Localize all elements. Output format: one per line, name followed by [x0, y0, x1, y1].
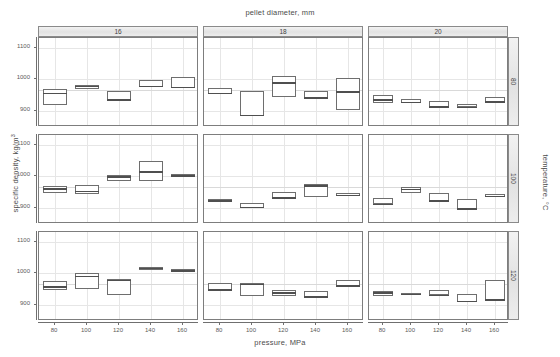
- y-tick-label: 900: [6, 203, 30, 209]
- x-tick-mark: [86, 322, 87, 325]
- reference-line: [369, 187, 507, 188]
- gridline-horizontal: [369, 273, 507, 274]
- x-tick-mark: [182, 322, 183, 325]
- y-tick-label: 1000: [6, 268, 30, 274]
- reference-line: [369, 90, 507, 91]
- gridline-horizontal: [369, 208, 507, 209]
- boxplot-box[interactable]: [485, 280, 506, 300]
- x-tick-label: 160: [170, 327, 194, 333]
- boxplot-median: [272, 197, 296, 199]
- y-tick-label: 900: [6, 300, 30, 306]
- boxplot-median: [240, 284, 264, 286]
- gridline-horizontal: [39, 111, 197, 112]
- column-strip-18: 18: [203, 26, 363, 37]
- y-tick-label: 1100: [6, 43, 30, 49]
- boxplot-median: [43, 188, 67, 190]
- y-tick-label: 900: [6, 106, 30, 112]
- x-tick-label: 120: [271, 327, 295, 333]
- boxplot-median: [457, 208, 478, 210]
- y-axis-line: [36, 134, 37, 223]
- x-tick-mark: [347, 322, 348, 325]
- boxplot-median: [107, 99, 131, 101]
- gridline-horizontal: [369, 79, 507, 80]
- panel-d16-t120: [38, 231, 198, 320]
- gridline-horizontal: [369, 111, 507, 112]
- boxplot-median: [240, 207, 264, 209]
- boxplot-median: [171, 270, 195, 272]
- x-tick-label: 140: [303, 327, 327, 333]
- panel-d18-t100: [203, 134, 363, 223]
- x-tick-label: 80: [207, 327, 231, 333]
- trellis-boxplot-figure: pellet diameter, mm pressure, MPa specif…: [0, 0, 560, 357]
- gridline-horizontal: [204, 176, 362, 177]
- row-strip-80: 80: [508, 37, 519, 126]
- x-axis-label: pressure, MPa: [0, 338, 560, 347]
- y-axis-line: [36, 37, 37, 126]
- x-tick-mark: [494, 322, 495, 325]
- gridline-horizontal: [204, 111, 362, 112]
- x-tick-label: 80: [42, 327, 66, 333]
- panel-d16-t80: [38, 37, 198, 126]
- boxplot-median: [429, 295, 450, 297]
- boxplot-median: [208, 93, 232, 95]
- gridline-horizontal: [39, 273, 197, 274]
- boxplot-median: [457, 107, 478, 109]
- x-tick-label: 120: [106, 327, 130, 333]
- x-tick-mark: [54, 322, 55, 325]
- boxplot-box[interactable]: [43, 89, 67, 105]
- x-tick-label: 100: [74, 327, 98, 333]
- x-tick-mark: [283, 322, 284, 325]
- boxplot-median: [139, 268, 163, 270]
- boxplot-median: [208, 200, 232, 202]
- y-tick-label: 1100: [6, 237, 30, 243]
- figure-top-title: pellet diameter, mm: [0, 8, 560, 17]
- gridline-horizontal: [204, 48, 362, 49]
- boxplot-median: [457, 301, 478, 303]
- x-tick-mark: [315, 322, 316, 325]
- x-tick-label: 160: [482, 327, 506, 333]
- x-tick-mark: [382, 322, 383, 325]
- x-tick-label: 140: [138, 327, 162, 333]
- boxplot-median: [401, 102, 422, 104]
- boxplot-box[interactable]: [75, 185, 99, 194]
- x-tick-mark: [438, 322, 439, 325]
- boxplot-box[interactable]: [240, 91, 264, 115]
- boxplot-median: [139, 86, 163, 88]
- x-tick-label: 100: [398, 327, 422, 333]
- gridline-horizontal: [369, 242, 507, 243]
- boxplot-median: [336, 195, 360, 197]
- x-tick-mark: [150, 322, 151, 325]
- gridline-horizontal: [39, 145, 197, 146]
- boxplot-median: [43, 286, 67, 288]
- gridline-horizontal: [369, 176, 507, 177]
- x-tick-mark: [118, 322, 119, 325]
- boxplot-median: [373, 99, 394, 101]
- x-tick-label: 140: [454, 327, 478, 333]
- boxplot-median: [75, 276, 99, 278]
- boxplot-box[interactable]: [107, 279, 131, 295]
- panel-d20-t120: [368, 231, 508, 320]
- gridline-horizontal: [39, 208, 197, 209]
- boxplot-box[interactable]: [336, 78, 360, 109]
- boxplot-median: [272, 82, 296, 84]
- right-strip-label: temperature, °C: [541, 113, 550, 253]
- reference-line: [204, 187, 362, 188]
- row-strip-120: 120: [508, 231, 519, 320]
- y-axis-line: [36, 231, 37, 320]
- gridline-horizontal: [369, 48, 507, 49]
- x-tick-label: 160: [335, 327, 359, 333]
- boxplot-median: [485, 196, 506, 198]
- boxplot-box[interactable]: [272, 76, 296, 97]
- x-tick-label: 80: [370, 327, 394, 333]
- panel-d16-t100: [38, 134, 198, 223]
- boxplot-median: [208, 289, 232, 291]
- boxplot-median: [336, 91, 360, 93]
- boxplot-median: [429, 200, 450, 202]
- boxplot-median: [43, 93, 67, 95]
- boxplot-median: [304, 296, 328, 298]
- x-tick-label: 120: [426, 327, 450, 333]
- gridline-horizontal: [204, 305, 362, 306]
- y-tick-label: 1000: [6, 171, 30, 177]
- x-tick-mark: [219, 322, 220, 325]
- gridline-horizontal: [369, 305, 507, 306]
